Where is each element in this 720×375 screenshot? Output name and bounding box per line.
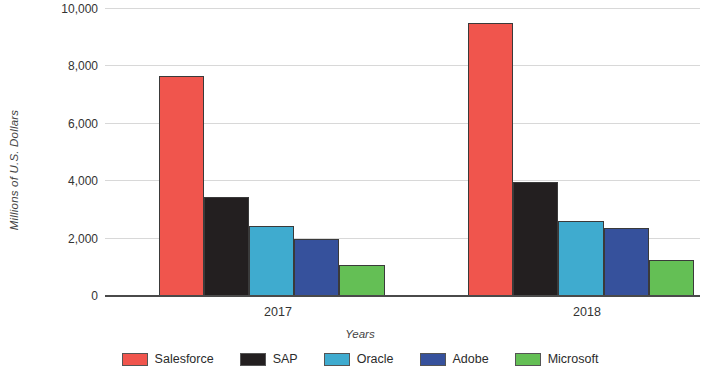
- chart-legend: SalesforceSAPOracleAdobeMicrosoft: [0, 352, 720, 366]
- bar-adobe-2018: [604, 228, 649, 296]
- bar-group-2017: [159, 9, 385, 296]
- legend-swatch-icon: [324, 353, 350, 366]
- legend-label: Salesforce: [155, 352, 214, 366]
- x-tick-label-2017: 2017: [218, 305, 338, 319]
- bar-microsoft-2018: [649, 260, 694, 296]
- legend-label: SAP: [273, 352, 298, 366]
- bar-chart: Millions of U.S. Dollars 02,0004,0006,00…: [0, 0, 720, 375]
- y-axis-title: Millions of U.S. Dollars: [8, 85, 20, 255]
- y-tick-label: 6,000: [28, 117, 98, 131]
- bar-group-2018: [468, 9, 694, 296]
- legend-label: Adobe: [453, 352, 489, 366]
- bar-salesforce-2018: [468, 23, 513, 296]
- legend-label: Microsoft: [548, 352, 599, 366]
- legend-swatch-icon: [122, 353, 148, 366]
- x-axis-line: [105, 295, 700, 297]
- legend-swatch-icon: [515, 353, 541, 366]
- bar-sap-2017: [204, 197, 249, 296]
- legend-label: Oracle: [357, 352, 394, 366]
- plot-area: [105, 9, 700, 296]
- legend-item-microsoft[interactable]: Microsoft: [515, 352, 599, 366]
- bar-oracle-2018: [558, 221, 603, 296]
- bar-oracle-2017: [249, 226, 294, 296]
- y-tick-label: 4,000: [28, 174, 98, 188]
- bar-microsoft-2017: [339, 265, 384, 296]
- y-tick-label: 8,000: [28, 59, 98, 73]
- x-tick-label-2018: 2018: [527, 305, 647, 319]
- legend-item-adobe[interactable]: Adobe: [420, 352, 489, 366]
- y-tick-label: 0: [28, 289, 98, 303]
- bar-sap-2018: [513, 182, 558, 296]
- y-tick-label: 10,000: [28, 2, 98, 16]
- legend-swatch-icon: [420, 353, 446, 366]
- y-tick-label: 2,000: [28, 232, 98, 246]
- legend-item-sap[interactable]: SAP: [240, 352, 298, 366]
- x-axis-title: Years: [0, 328, 720, 340]
- legend-item-oracle[interactable]: Oracle: [324, 352, 394, 366]
- bar-adobe-2017: [294, 239, 339, 296]
- legend-item-salesforce[interactable]: Salesforce: [122, 352, 214, 366]
- legend-swatch-icon: [240, 353, 266, 366]
- bar-salesforce-2017: [159, 76, 204, 296]
